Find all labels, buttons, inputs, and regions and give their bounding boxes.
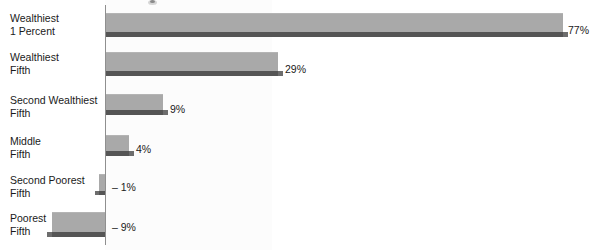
category-label-middle-fifth: Middle Fifth xyxy=(10,135,105,161)
bar-row-middle-fifth: Middle Fifth 4% xyxy=(0,131,603,171)
category-label-line1: Wealthiest xyxy=(10,51,59,63)
bar-row-wealthiest-1-percent: Wealthiest 1 Percent 77% xyxy=(0,8,603,48)
bar-chart: Wealthiest 1 Percent 77% Wealthiest Fift… xyxy=(0,0,603,250)
bar-bevel-left xyxy=(95,191,99,195)
bar-shadow xyxy=(106,151,129,156)
bar-shadow xyxy=(106,32,563,37)
bar-face xyxy=(106,135,129,151)
bar-bevel-right xyxy=(129,151,134,156)
value-label-middle-fifth: 4% xyxy=(136,143,151,156)
bar-row-second-wealthiest-fifth: Second Wealthiest Fifth 9% xyxy=(0,90,603,130)
value-label-second-poorest-fifth: – 1% xyxy=(112,181,136,194)
bar-bevel-left xyxy=(47,232,52,237)
category-label-line1: Second Wealthiest xyxy=(10,94,97,106)
category-label-line1: Second Poorest xyxy=(10,174,85,186)
value-label-wealthiest-fifth: 29% xyxy=(285,63,306,76)
bar-bevel-right xyxy=(278,71,283,76)
bar-poorest-fifth xyxy=(52,212,105,238)
bar-shadow xyxy=(106,110,163,115)
value-label-poorest-fifth: – 9% xyxy=(112,221,136,234)
bar-shadow xyxy=(106,71,278,76)
bar-shadow xyxy=(52,232,105,237)
scan-artifact-speck-core xyxy=(150,0,155,3)
category-label-line2: Fifth xyxy=(10,107,105,120)
bar-face xyxy=(106,52,278,71)
bar-second-wealthiest-fifth xyxy=(106,94,163,120)
bar-face xyxy=(106,94,163,110)
bar-second-poorest-fifth xyxy=(99,174,105,200)
category-label-line1: Poorest xyxy=(10,212,46,224)
bar-bevel-right xyxy=(163,110,168,115)
bar-face xyxy=(106,13,563,32)
bar-middle-fifth xyxy=(106,135,129,161)
category-label-line2: Fifth xyxy=(10,187,105,200)
category-label-wealthiest-fifth: Wealthiest Fifth xyxy=(10,51,105,77)
category-label-line2: Fifth xyxy=(10,64,105,77)
category-label-line2: Fifth xyxy=(10,148,105,161)
category-label-line1: Wealthiest xyxy=(10,12,59,24)
bar-shadow xyxy=(99,191,105,195)
category-label-line1: Middle xyxy=(10,135,41,147)
category-label-line2: 1 Percent xyxy=(10,25,105,38)
value-label-wealthiest-1-percent: 77% xyxy=(568,24,589,37)
category-label-second-wealthiest-fifth: Second Wealthiest Fifth xyxy=(10,94,105,120)
bar-row-wealthiest-fifth: Wealthiest Fifth 29% xyxy=(0,47,603,87)
value-label-second-wealthiest-fifth: 9% xyxy=(170,103,185,116)
bar-face xyxy=(99,174,105,191)
bar-row-poorest-fifth: Poorest Fifth – 9% xyxy=(0,208,603,250)
bar-face xyxy=(52,212,105,232)
bar-wealthiest-fifth xyxy=(106,52,278,78)
category-label-second-poorest-fifth: Second Poorest Fifth xyxy=(10,174,105,200)
bar-row-second-poorest-fifth: Second Poorest Fifth – 1% xyxy=(0,170,603,210)
bar-wealthiest-1-percent xyxy=(106,13,563,39)
category-label-wealthiest-1-percent: Wealthiest 1 Percent xyxy=(10,12,105,38)
